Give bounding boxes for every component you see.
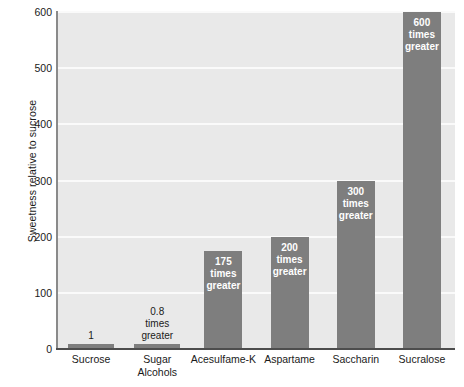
x-tick-label: Sucralose — [389, 353, 455, 366]
bar-value-label: 1 — [88, 330, 94, 342]
gridline — [58, 11, 455, 13]
y-axis-line — [56, 11, 58, 350]
gridline — [58, 292, 455, 294]
gridline — [58, 67, 455, 69]
bar-value-label-line: greater — [141, 330, 173, 342]
x-tick-label-line: Sucrose — [58, 353, 124, 366]
bar-value-label-line: 0.8 — [141, 306, 173, 318]
bar-value-label-line: greater — [206, 280, 240, 292]
x-tick-label-line: Aspartame — [257, 353, 323, 366]
bar-value-label-line: 300 — [339, 186, 373, 198]
bar[interactable]: 600timesgreater — [403, 12, 441, 349]
x-tick-label: Acesulfame-K — [190, 353, 256, 366]
bar[interactable]: 175timesgreater — [204, 251, 242, 349]
bar-chart: Sweetness relative to sucrose 0100200300… — [0, 0, 464, 387]
y-tick-label: 200 — [4, 231, 52, 243]
y-axis-tick-labels: 0100200300400500600 — [0, 0, 52, 387]
x-tick-label: Saccharin — [323, 353, 389, 366]
y-tick-label: 500 — [4, 62, 52, 74]
gridline — [58, 236, 455, 238]
bar-slot: 200timesgreater — [271, 12, 309, 349]
bar-value-label-line: 200 — [273, 242, 307, 254]
x-tick-label: SugarAlcohols — [124, 353, 190, 378]
plot-area: 10.8timesgreater175timesgreater200timesg… — [58, 12, 455, 349]
bar-value-label-line: times — [273, 254, 307, 266]
bar-value-label-line: 600 — [405, 17, 439, 29]
bar-value-label: 0.8timesgreater — [141, 306, 173, 342]
y-tick-label: 100 — [4, 287, 52, 299]
bar-value-label-line: times — [206, 268, 240, 280]
x-tick-label: Sucrose — [58, 353, 124, 366]
bar-value-label-line: times — [339, 198, 373, 210]
bar[interactable]: 200timesgreater — [271, 237, 309, 349]
bar-slot: 175timesgreater — [204, 12, 242, 349]
y-tick-label: 600 — [4, 6, 52, 18]
bar-value-label: 175timesgreater — [206, 256, 240, 292]
y-tick-label: 300 — [4, 175, 52, 187]
bar[interactable]: 300timesgreater — [337, 181, 375, 350]
bar-value-label: 200timesgreater — [273, 242, 307, 278]
bar-slot: 600timesgreater — [403, 12, 441, 349]
bar-slot: 1 — [68, 12, 114, 349]
bar-slot: 0.8timesgreater — [134, 12, 180, 349]
x-tick-label-line: Acesulfame-K — [190, 353, 256, 366]
x-tick-label-line: Alcohols — [124, 366, 190, 379]
bar-slot: 300timesgreater — [337, 12, 375, 349]
bar-value-label: 600timesgreater — [405, 17, 439, 53]
x-axis-tick-labels: SucroseSugarAlcoholsAcesulfame-KAspartam… — [58, 353, 455, 387]
y-tick-label: 400 — [4, 118, 52, 130]
x-tick-label-line: Saccharin — [323, 353, 389, 366]
x-axis-line — [56, 348, 455, 350]
bar-value-label-line: greater — [273, 266, 307, 278]
gridline — [58, 180, 455, 182]
gridline — [58, 123, 455, 125]
bar-value-label-line: 175 — [206, 256, 240, 268]
bar-value-label-line: times — [141, 318, 173, 330]
bar-value-label-line: times — [405, 29, 439, 41]
y-tick-label: 0 — [4, 343, 52, 355]
x-tick-label-line: Sugar — [124, 353, 190, 366]
bar-value-label-line: 1 — [88, 330, 94, 342]
bar-value-label: 300timesgreater — [339, 186, 373, 222]
x-tick-label: Aspartame — [257, 353, 323, 366]
x-tick-label-line: Sucralose — [389, 353, 455, 366]
bar-value-label-line: greater — [405, 41, 439, 53]
bar-value-label-line: greater — [339, 210, 373, 222]
